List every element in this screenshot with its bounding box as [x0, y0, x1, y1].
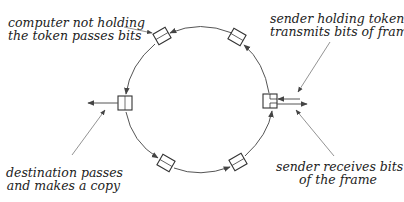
stations: [118, 27, 277, 171]
station-top-right: [228, 28, 246, 45]
label-destination-copy: destination passes and makes a copy: [6, 166, 120, 192]
label-sender-receives: sender receives bits of the frame: [276, 160, 400, 186]
station-top-left: [153, 27, 171, 44]
ring-segments: [126, 27, 272, 173]
ring-arc-upper-right: [244, 45, 269, 93]
station-bottom-left: [157, 154, 175, 171]
label-sender-receives-line2: of the frame: [276, 173, 400, 186]
ring-arc-top: [170, 27, 232, 34]
station-left-destination: [118, 96, 132, 110]
ring-arc-upper-left: [126, 44, 155, 94]
label-sender-transmits-line2: transmits bits of frame: [270, 25, 402, 38]
station-bottom-right: [229, 153, 247, 170]
ring-arc-lower-right: [245, 111, 272, 156]
label-sender-transmits: sender holding token transmits bits of f…: [270, 12, 402, 38]
label-passes-bits: computer not holding the token passes bi…: [8, 16, 126, 42]
ring-arc-lower-left: [126, 112, 158, 158]
pointer-destination-copy: [72, 110, 105, 155]
label-pointers: [72, 27, 334, 156]
station-right-sender: [263, 94, 277, 108]
label-passes-bits-line2: the token passes bits: [8, 29, 126, 42]
pointer-sender-transmits: [298, 42, 330, 92]
pointer-sender-receives: [296, 110, 334, 156]
ring-arc-bottom: [174, 167, 230, 173]
label-destination-copy-line2: and makes a copy: [6, 179, 120, 192]
